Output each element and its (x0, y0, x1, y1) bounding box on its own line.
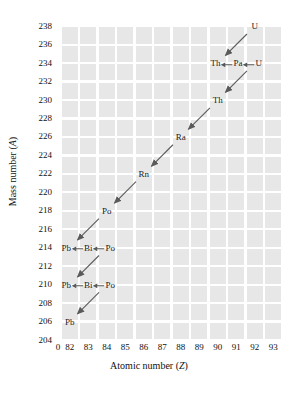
grid-cell (154, 101, 170, 117)
nuclide-label: Po (102, 206, 112, 216)
grid-cell (136, 193, 152, 209)
grid-cell (191, 138, 207, 154)
grid-cell (265, 64, 281, 80)
y-axis-title: Mass number (A) (7, 92, 18, 252)
grid-cell (265, 230, 281, 246)
grid-cell (117, 138, 133, 154)
y-axis-tick-label: 218 (18, 206, 52, 215)
grid-cell (136, 101, 152, 117)
grid-cell (228, 267, 244, 283)
grid-cell (99, 101, 115, 117)
grid-cell (117, 101, 133, 117)
nuclide-label: Bi (84, 279, 93, 289)
grid-cell (191, 249, 207, 265)
nuclide-label: Pb (62, 242, 72, 252)
grid-cell (62, 120, 78, 136)
grid-cell (191, 46, 207, 62)
grid-cell (154, 323, 170, 339)
nuclide-label: Pb (62, 279, 72, 289)
grid-cell (154, 120, 170, 136)
y-axis-title-tail: ) (7, 137, 18, 140)
grid-cell (173, 304, 189, 320)
grid-cell (228, 83, 244, 99)
grid-cell (62, 46, 78, 62)
nuclide-row: Pb (65, 317, 75, 327)
grid-cell (228, 138, 244, 154)
grid-cell (228, 286, 244, 302)
grid-cell (265, 249, 281, 265)
grid-cell (80, 212, 96, 228)
grid-cell (228, 212, 244, 228)
nuclide-label: Ra (176, 132, 186, 142)
grid-cell (62, 64, 78, 80)
grid-cell (80, 193, 96, 209)
grid-cell (99, 323, 115, 339)
nuclide-row: Ra (176, 132, 186, 142)
nuclide-label: U (251, 21, 258, 31)
grid-cell (210, 175, 226, 191)
grid-cell (136, 64, 152, 80)
y-axis-tick-label: 206 (18, 317, 52, 326)
grid-cell (80, 323, 96, 339)
grid-cell (228, 304, 244, 320)
grid-cell (228, 101, 244, 117)
grid-cell (154, 230, 170, 246)
grid-cell (210, 27, 226, 43)
x-axis-tick-label: 93 (261, 343, 285, 352)
y-axis-tick-label: 234 (18, 59, 52, 68)
grid-cell (265, 101, 281, 117)
grid-cell (265, 83, 281, 99)
grid-cell (228, 120, 244, 136)
nuclide-label: Po (106, 242, 116, 252)
grid-cell (80, 83, 96, 99)
nuclide-label: Rn (138, 169, 149, 179)
y-axis-tick-label: 224 (18, 151, 52, 160)
grid-cell (154, 267, 170, 283)
grid-cell (80, 64, 96, 80)
beta-decay-arrow-icon (242, 59, 255, 68)
grid-cell (265, 46, 281, 62)
decay-series-figure: UThPaUThRaRnPoPbBiPoPbBiPoPb 20420620821… (0, 0, 298, 396)
grid-cell (191, 212, 207, 228)
grid-cell (117, 230, 133, 246)
grid-cell (265, 304, 281, 320)
x-axis-title-text: Atomic number ( (110, 360, 179, 371)
grid-cell (117, 157, 133, 173)
x-axis-title: Atomic number (Z) (0, 360, 298, 371)
grid-cell (191, 64, 207, 80)
grid-cell (247, 286, 263, 302)
grid-cell (191, 230, 207, 246)
grid-cell (154, 175, 170, 191)
y-axis-tick-label: 230 (18, 96, 52, 105)
grid-cell (265, 157, 281, 173)
grid-cell (247, 230, 263, 246)
grid-cell (247, 175, 263, 191)
grid-cell (247, 323, 263, 339)
grid-cell (117, 64, 133, 80)
grid-cell (228, 249, 244, 265)
grid-cell (191, 286, 207, 302)
grid-cell (117, 175, 133, 191)
y-axis-tick-label: 208 (18, 299, 52, 308)
grid-cell (80, 101, 96, 117)
y-axis-tick-label: 228 (18, 114, 52, 123)
grid-cell (62, 193, 78, 209)
grid-cell (210, 286, 226, 302)
grid-cell (228, 175, 244, 191)
grid-cell (228, 27, 244, 43)
beta-decay-arrow-icon (93, 281, 106, 290)
grid-cell (117, 267, 133, 283)
nuclide-label: Pa (233, 58, 242, 68)
grid-cell (136, 83, 152, 99)
nuclide-row: ThPaU (210, 58, 262, 68)
grid-cell (136, 323, 152, 339)
grid-cell (228, 157, 244, 173)
grid-cell (80, 27, 96, 43)
grid-cell (191, 101, 207, 117)
grid-cell (247, 157, 263, 173)
y-axis-tick-label: 232 (18, 77, 52, 86)
beta-decay-arrow-icon (71, 281, 84, 290)
grid-cell (136, 138, 152, 154)
y-axis-title-text: Mass number ( (7, 146, 18, 206)
grid-cell (265, 138, 281, 154)
